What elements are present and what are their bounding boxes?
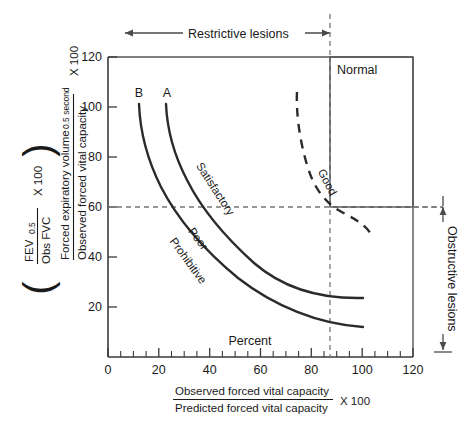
y-axis-title-numerator-sub: 0.5 second bbox=[61, 87, 71, 129]
x-axis-tick-labels: 0 20 40 60 80 100 120 bbox=[105, 363, 424, 377]
y-axis-title-multiplier: X 100 bbox=[68, 46, 80, 76]
y-axis-alt-title-group: ( FEV 0.5 Obs FVC X 100 ) bbox=[16, 143, 60, 294]
y-axis-ticks bbox=[108, 57, 117, 307]
x-axis-title-group: Observed forced vital capacity Predicted… bbox=[173, 385, 370, 414]
x-tick-label-80: 80 bbox=[304, 363, 318, 377]
satisfactory-label: Satisfactory bbox=[194, 160, 237, 217]
x-tick-label-120: 120 bbox=[403, 363, 424, 377]
normal-label: Normal bbox=[337, 63, 377, 77]
restrictive-arrow-left-head bbox=[125, 30, 133, 37]
percent-label: Percent bbox=[228, 334, 272, 348]
restrictive-lesions-annotation: Restrictive lesions bbox=[125, 23, 330, 43]
obstructive-lesions-label: Obstructive lesions bbox=[445, 226, 459, 332]
y-tick-label-20: 20 bbox=[88, 300, 102, 314]
x-tick-label-60: 60 bbox=[254, 363, 268, 377]
x-tick-label-20: 20 bbox=[152, 363, 166, 377]
normal-region-box: Normal bbox=[330, 57, 413, 207]
x-tick-label-40: 40 bbox=[203, 363, 217, 377]
curve-a-label: A bbox=[163, 86, 172, 100]
y-axis-title-numerator: Forced expiratory volume bbox=[59, 130, 71, 260]
y-alt-multiplier: X 100 bbox=[32, 166, 44, 196]
x-axis-title-denominator: Predicted forced vital capacity bbox=[175, 402, 328, 414]
x-axis-title-numerator: Observed forced vital capacity bbox=[175, 385, 329, 397]
y-tick-label-80: 80 bbox=[88, 150, 102, 164]
right-paren: ) bbox=[16, 143, 60, 156]
curve-good bbox=[297, 92, 371, 234]
obstructive-arrow-top-head bbox=[440, 207, 447, 215]
restrictive-arrow-right-head bbox=[322, 30, 330, 37]
y-alt-numerator: FEV bbox=[23, 239, 35, 262]
obstructive-arrow-bottom-head bbox=[440, 342, 447, 350]
pulmonary-function-chart: Restrictive lesions 120 100 80 60 40 20 bbox=[0, 0, 466, 429]
obstructive-lesions-annotation: Obstructive lesions bbox=[413, 196, 459, 352]
y-tick-label-60: 60 bbox=[88, 200, 102, 214]
x-tick-label-100: 100 bbox=[352, 363, 373, 377]
y-alt-numerator-sub: 0.5 bbox=[27, 222, 37, 234]
x-axis-major-ticks bbox=[108, 348, 413, 357]
y-axis-title-denominator: Observed forced vital capacity bbox=[76, 106, 88, 260]
left-paren: ( bbox=[16, 281, 60, 295]
x-tick-label-0: 0 bbox=[105, 363, 112, 377]
normal-box-outline bbox=[330, 57, 413, 207]
curve-b-label: B bbox=[135, 86, 143, 100]
x-axis-title-multiplier: X 100 bbox=[340, 395, 370, 407]
y-alt-denominator: Obs FVC bbox=[40, 217, 52, 264]
y-axis-title-group: Forced expiratory volume 0.5 second Obse… bbox=[59, 46, 88, 260]
y-tick-label-40: 40 bbox=[88, 250, 102, 264]
chart-svg: Restrictive lesions 120 100 80 60 40 20 bbox=[0, 0, 466, 429]
y-tick-label-120: 120 bbox=[81, 50, 102, 64]
restrictive-lesions-label: Restrictive lesions bbox=[188, 27, 289, 41]
satisfactory-label-group: Satisfactory bbox=[194, 160, 237, 217]
